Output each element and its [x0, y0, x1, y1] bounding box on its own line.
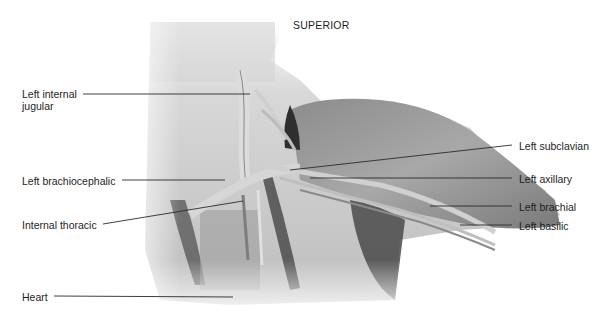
label-left-brachiocephalic: Left brachiocephalic	[22, 175, 115, 187]
label-line-1: Left internal	[22, 88, 77, 100]
leader-line-heart	[54, 296, 233, 297]
leader-line-left-subclavian	[290, 145, 512, 170]
leader-lines	[0, 0, 612, 320]
label-line-2: jugular	[22, 100, 77, 112]
orientation-label: SUPERIOR	[293, 19, 349, 31]
label-left-brachial: Left brachial	[519, 201, 576, 213]
anatomy-figure: SUPERIOR Left internal jugular Left brac…	[0, 0, 612, 320]
leader-line-internal-thoracic	[103, 201, 243, 224]
label-heart: Heart	[22, 291, 48, 303]
label-left-internal-jugular: Left internal jugular	[22, 88, 77, 112]
label-internal-thoracic: Internal thoracic	[22, 219, 97, 231]
label-left-subclavian: Left subclavian	[519, 140, 589, 152]
label-left-basilic: Left basilic	[519, 220, 569, 232]
label-left-axillary: Left axillary	[519, 173, 572, 185]
